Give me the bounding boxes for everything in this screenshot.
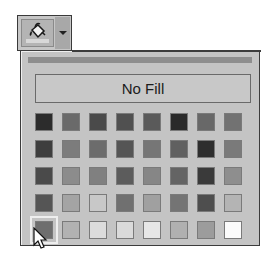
color-swatch-r0-c6[interactable] — [197, 113, 215, 131]
chevron-down-icon — [59, 31, 67, 35]
fill-color-palette-panel: No Fill — [20, 50, 260, 246]
current-color-bar — [26, 39, 49, 43]
paint-bucket-icon — [28, 22, 48, 40]
color-swatch-r2-c6[interactable] — [197, 167, 215, 185]
color-swatch-r3-c5[interactable] — [170, 194, 188, 212]
color-swatch-r3-c6[interactable] — [197, 194, 215, 212]
color-swatch-r1-c5[interactable] — [170, 140, 188, 158]
color-swatch-r1-c7[interactable] — [224, 140, 242, 158]
color-swatch-r1-c6[interactable] — [197, 140, 215, 158]
color-swatch-r3-c3[interactable] — [116, 194, 134, 212]
color-swatch-r0-c1[interactable] — [62, 113, 80, 131]
color-swatch-r0-c0[interactable] — [35, 113, 53, 131]
color-swatch-r0-c7[interactable] — [224, 113, 242, 131]
color-swatch-r3-c1[interactable] — [62, 194, 80, 212]
color-swatch-r2-c4[interactable] — [143, 167, 161, 185]
color-swatch-r2-c2[interactable] — [89, 167, 107, 185]
color-swatch-r3-c7[interactable] — [224, 194, 242, 212]
color-swatch-r4-c1[interactable] — [62, 221, 80, 239]
color-swatch-r4-c2[interactable] — [89, 221, 107, 239]
fill-color-button[interactable] — [21, 19, 54, 47]
no-fill-button[interactable]: No Fill — [35, 74, 251, 103]
color-swatch-r3-c0[interactable] — [35, 194, 53, 212]
color-swatch-r3-c2[interactable] — [89, 194, 107, 212]
color-swatch-r4-c4[interactable] — [143, 221, 161, 239]
fill-color-dropdown-button[interactable] — [55, 17, 70, 49]
color-swatch-r4-c5[interactable] — [170, 221, 188, 239]
color-swatch-r0-c2[interactable] — [89, 113, 107, 131]
color-swatch-r0-c5[interactable] — [170, 113, 188, 131]
color-swatch-r1-c3[interactable] — [116, 140, 134, 158]
color-swatch-r1-c1[interactable] — [62, 140, 80, 158]
color-swatch-r2-c0[interactable] — [35, 167, 53, 185]
fill-color-toolbar-button[interactable] — [17, 15, 72, 51]
color-swatch-r0-c3[interactable] — [116, 113, 134, 131]
color-swatch-r4-c7[interactable] — [224, 221, 242, 239]
color-swatch-r2-c5[interactable] — [170, 167, 188, 185]
color-swatch-r1-c0[interactable] — [35, 140, 53, 158]
arrow-cursor-icon — [33, 227, 49, 251]
color-swatch-r3-c4[interactable] — [143, 194, 161, 212]
color-swatch-r4-c3[interactable] — [116, 221, 134, 239]
color-swatch-r2-c3[interactable] — [116, 167, 134, 185]
color-swatch-r1-c4[interactable] — [143, 140, 161, 158]
color-swatch-r0-c4[interactable] — [143, 113, 161, 131]
palette-drag-handle[interactable] — [28, 57, 252, 63]
color-swatch-r4-c6[interactable] — [197, 221, 215, 239]
panel-top-border — [72, 50, 261, 52]
color-swatch-r2-c1[interactable] — [62, 167, 80, 185]
color-swatch-r2-c7[interactable] — [224, 167, 242, 185]
color-swatch-r1-c2[interactable] — [89, 140, 107, 158]
